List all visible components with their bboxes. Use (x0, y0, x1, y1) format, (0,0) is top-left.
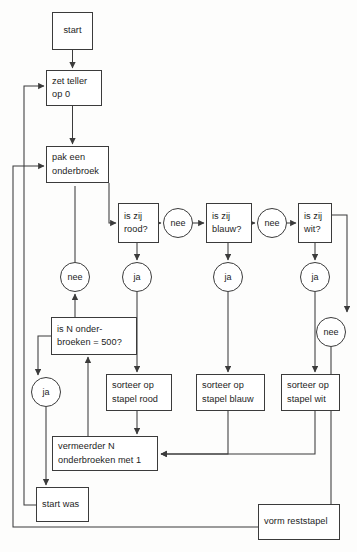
node-sorteer-wit-line1: sorteer op (287, 379, 334, 393)
node-is-zij-blauw[interactable]: is zij blauw? (206, 203, 252, 243)
branch-ja-rood[interactable]: ja (122, 262, 152, 292)
node-start-label: start (63, 24, 81, 38)
node-sorteer-blauw-line2: stapel blauw (202, 393, 259, 407)
node-start-was[interactable]: start was (36, 487, 89, 522)
edge-startwas-zetteller (24, 86, 44, 505)
node-zet-teller[interactable]: zet teller op 0 (46, 70, 102, 106)
node-is-blauw-line2: blauw? (212, 223, 246, 237)
node-vorm-reststapel[interactable]: vorm reststapel (258, 504, 340, 540)
node-is-wit-line1: is zij (304, 210, 326, 224)
node-vermeerder-line2: onderbroeken met 1 (58, 454, 152, 468)
branch-ja-rood-label: ja (133, 273, 140, 282)
node-is-blauw-line1: is zij (212, 210, 246, 224)
flowchart-canvas: start zet teller op 0 pak een onderbroek… (0, 0, 357, 552)
node-start[interactable]: start (52, 12, 93, 50)
node-sorteer-rood-line2: stapel rood (112, 393, 166, 407)
branch-ja-wit[interactable]: ja (300, 262, 330, 292)
node-sorteer-stapel-wit[interactable]: sorteer op stapel wit (281, 374, 340, 411)
node-is-n-line2: broeken = 500? (57, 336, 131, 350)
node-is-wit-line2: wit? (304, 223, 326, 237)
node-is-zij-wit[interactable]: is zij wit? (298, 203, 332, 243)
branch-nee-wit[interactable]: nee (316, 317, 346, 347)
branch-nee-wit-label: nee (323, 328, 338, 337)
node-sorteer-blauw-line1: sorteer op (202, 379, 259, 393)
node-pak-een-onderbroek[interactable]: pak een onderbroek (46, 146, 109, 183)
node-is-n-onderbroeken[interactable]: is N onder- broeken = 500? (51, 317, 137, 355)
node-start-was-label: start was (42, 498, 83, 512)
node-is-zij-rood[interactable]: is zij rood? (118, 203, 159, 243)
node-pak-een-line1: pak een (52, 151, 103, 165)
node-is-rood-line2: rood? (124, 223, 153, 237)
node-vermeerder-n[interactable]: vermeerder N onderbroeken met 1 (52, 436, 158, 471)
node-vorm-reststapel-label: vorm reststapel (264, 515, 334, 529)
node-sorteer-wit-line2: stapel wit (287, 393, 334, 407)
edge-iswit-nee (332, 215, 347, 312)
branch-ja-blauw-label: ja (224, 273, 231, 282)
branch-ja-is-n-label: ja (42, 388, 49, 397)
branch-ja-is-n[interactable]: ja (31, 377, 61, 407)
node-sorteer-stapel-blauw[interactable]: sorteer op stapel blauw (196, 374, 265, 411)
branch-ja-wit-label: ja (311, 273, 318, 282)
edge-sorteerwit-vermeerder (161, 411, 315, 454)
branch-nee-is-n-label: nee (67, 273, 82, 282)
node-sorteer-rood-line1: sorteer op (112, 379, 166, 393)
node-is-n-line1: is N onder- (57, 323, 131, 337)
node-sorteer-stapel-rood[interactable]: sorteer op stapel rood (106, 374, 172, 411)
branch-nee-rood-label: nee (170, 219, 185, 228)
node-vermeerder-line1: vermeerder N (58, 440, 152, 454)
branch-nee-is-n[interactable]: nee (60, 262, 90, 292)
edge-isn-ja (38, 336, 51, 375)
edge-pakeen-isrood (109, 183, 116, 223)
branch-ja-blauw[interactable]: ja (213, 262, 243, 292)
node-zet-teller-line2: op 0 (52, 88, 96, 102)
branch-nee-blauw[interactable]: nee (257, 208, 287, 238)
node-is-rood-line1: is zij (124, 210, 153, 224)
node-zet-teller-line1: zet teller (52, 75, 96, 89)
node-pak-een-line2: onderbroek (52, 165, 103, 179)
edge-sorteerblauw-vermeerder (161, 411, 228, 454)
branch-nee-blauw-label: nee (264, 219, 279, 228)
branch-nee-rood[interactable]: nee (163, 208, 193, 238)
